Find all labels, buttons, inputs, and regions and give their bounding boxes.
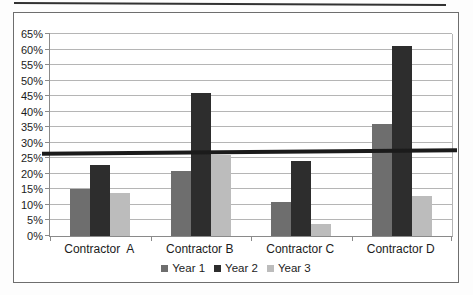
bar-year1-3 xyxy=(271,202,291,236)
x-axis-tick xyxy=(352,236,353,241)
bar-year1-1 xyxy=(70,189,90,236)
chart-frame: 0%5%10%15%20%25%30%35%40%45%50%55%60%65%… xyxy=(13,12,459,283)
y-axis-label-45: 45% xyxy=(13,89,43,103)
legend-label: Year 2 xyxy=(225,262,258,274)
x-axis-category-label: Contractor C xyxy=(250,242,351,256)
y-axis-label-60: 60% xyxy=(13,43,43,57)
y-axis-label-10: 10% xyxy=(13,198,43,212)
x-axis-labels: Contractor AContractor BContractor CCont… xyxy=(49,242,451,257)
bar-year2-2 xyxy=(191,93,211,236)
legend-label: Year 1 xyxy=(172,262,205,274)
y-axis-label-35: 35% xyxy=(13,120,43,134)
bar-group-4 xyxy=(352,34,453,236)
x-axis-tick xyxy=(151,236,152,241)
y-axis-label-0: 0% xyxy=(13,229,43,243)
bar-year1-4 xyxy=(372,124,392,236)
legend-item-year2: Year 2 xyxy=(214,262,258,274)
y-axis-label-40: 40% xyxy=(13,105,43,119)
y-axis-label-5: 5% xyxy=(13,213,43,227)
legend-item-year3: Year 3 xyxy=(267,262,311,274)
bar-year2-1 xyxy=(90,165,110,236)
x-axis-tick xyxy=(50,236,51,241)
scan-artifact-line xyxy=(14,2,446,6)
legend-swatch xyxy=(161,265,168,272)
bar-group-1 xyxy=(50,34,151,236)
x-axis-category-label: Contractor A xyxy=(49,242,150,256)
legend-item-year1: Year 1 xyxy=(161,262,205,274)
bar-year2-3 xyxy=(291,161,311,236)
legend-label: Year 3 xyxy=(278,262,311,274)
plot-area: 0%5%10%15%20%25%30%35%40%45%50%55%60%65% xyxy=(49,34,453,237)
y-axis-label-50: 50% xyxy=(13,74,43,88)
legend-swatch xyxy=(214,265,221,272)
bar-year3-4 xyxy=(412,196,432,236)
x-axis-category-label: Contractor D xyxy=(351,242,452,256)
bar-year2-4 xyxy=(392,46,412,236)
y-axis-label-20: 20% xyxy=(13,167,43,181)
bar-group-3 xyxy=(251,34,352,236)
x-axis-tick xyxy=(451,236,452,241)
bar-year3-2 xyxy=(211,155,231,236)
y-axis-label-25: 25% xyxy=(13,151,43,165)
y-axis-label-55: 55% xyxy=(13,58,43,72)
y-axis-label-30: 30% xyxy=(13,136,43,150)
legend-swatch xyxy=(267,265,274,272)
bar-year3-1 xyxy=(110,193,130,237)
x-axis-category-label: Contractor B xyxy=(150,242,251,256)
y-axis-label-15: 15% xyxy=(13,182,43,196)
legend: Year 1Year 2Year 3 xyxy=(14,262,458,274)
y-axis-label-65: 65% xyxy=(13,27,43,41)
bar-group-2 xyxy=(151,34,252,236)
x-axis-tick xyxy=(251,236,252,241)
bar-year1-2 xyxy=(171,171,191,236)
bar-year3-3 xyxy=(311,224,331,236)
